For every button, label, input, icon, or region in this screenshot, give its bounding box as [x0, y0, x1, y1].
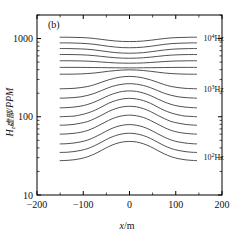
- curve-line-1: [60, 37, 196, 41]
- x-tick-label: 200: [215, 199, 230, 210]
- x-tick-label: −200: [27, 199, 48, 210]
- chart-svg: −200−1000100200 101001000 104Hz103Hz102H…: [0, 0, 241, 235]
- panel-label: (b): [48, 19, 60, 31]
- curve-line-3: [60, 49, 196, 54]
- x-tick-labels: −200−1000100200: [27, 199, 230, 210]
- annotation-label: 104Hz: [204, 33, 225, 43]
- y-tick-label: 10: [23, 190, 33, 201]
- curve-line-16: [60, 141, 196, 160]
- x-tick-label: 0: [127, 199, 132, 210]
- curve-line-7: [60, 70, 196, 74]
- x-tick-label: −100: [73, 199, 94, 210]
- y-tick-label: 1000: [13, 33, 33, 44]
- curve-line-11: [60, 98, 196, 116]
- y-axis-title: Hz虚部/PPM: [4, 87, 16, 138]
- y-tick-labels: 101001000: [13, 33, 33, 200]
- curve-line-15: [60, 133, 196, 152]
- curve-line-10: [60, 91, 196, 108]
- figure-container: −200−1000100200 101001000 104Hz103Hz102H…: [0, 0, 241, 235]
- curve-line-2: [60, 43, 196, 48]
- curve-line-12: [60, 106, 196, 125]
- x-axis-title: x/m: [118, 220, 134, 231]
- series-annotations: 104Hz103Hz102Hz: [204, 33, 225, 162]
- curve-line-4: [60, 55, 196, 59]
- curve-line-5: [60, 61, 196, 63]
- curve-group: [60, 37, 196, 160]
- annotation-2: 103Hz: [204, 84, 225, 94]
- y-tick-label: 100: [18, 111, 33, 122]
- annotation-1: 104Hz: [204, 33, 225, 43]
- x-tick-label: 100: [168, 199, 183, 210]
- annotation-3: 102Hz: [204, 152, 225, 162]
- svg-text:Hz虚部/PPM: Hz虚部/PPM: [4, 87, 16, 138]
- annotation-label: 102Hz: [204, 152, 225, 162]
- annotation-label: 103Hz: [204, 84, 225, 94]
- curve-line-8: [60, 76, 196, 88]
